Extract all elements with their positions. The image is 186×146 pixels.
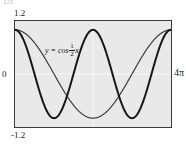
y-axis-max-label: 1.2 <box>14 8 25 18</box>
x-axis-max-label: 4π <box>174 68 184 78</box>
y-axis-zero-label: 0 <box>2 69 7 79</box>
one-half-fraction: 12 <box>69 43 75 58</box>
plot-area: y = cos12x y = cos x <box>14 20 172 128</box>
curve-label-cos-half-x-variable: x <box>75 46 79 55</box>
curve-label-cos-half-x: y = cos12x <box>45 43 79 58</box>
caption-remnant: 121 <box>3 0 25 5</box>
fraction-numerator: 1 <box>69 43 75 50</box>
plot-canvas <box>15 21 171 127</box>
y-axis-min-label: -1.2 <box>11 130 25 140</box>
gridlines <box>15 21 171 127</box>
fraction-denominator: 2 <box>69 50 75 58</box>
curve-label-cos-half-x-prefix: y = cos <box>45 46 69 55</box>
figure-container: 121 1.2 0 -1.2 4π y = cos12x y = cos x <box>0 0 186 146</box>
